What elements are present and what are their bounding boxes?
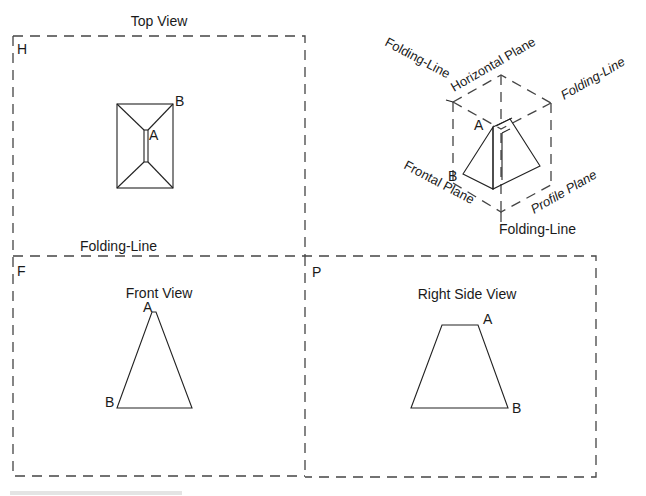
right-side-view-title: Right Side View	[418, 286, 517, 302]
front-view-triangle	[117, 312, 192, 408]
view-frames	[13, 36, 596, 477]
isometric-glass-box: A B Horizontal Plane Folding-Line Foldin…	[383, 34, 628, 237]
iso-point-a: A	[474, 117, 484, 133]
folding-line-bottom-label: Folding-Line	[499, 221, 576, 237]
top-view-point-b: B	[175, 93, 184, 109]
iso-pyramid-front-face	[463, 127, 493, 189]
plane-letter-f: F	[17, 263, 26, 279]
plane-letter-h: H	[17, 41, 27, 57]
folding-line-left-label: Folding-Line	[383, 34, 453, 81]
top-view-title: Top View	[131, 13, 188, 29]
front-view-title: Front View	[126, 285, 194, 301]
iso-pyramid-side-face	[493, 119, 540, 189]
horizontal-plane-label: Horizontal Plane	[448, 34, 538, 95]
plane-letter-p: P	[312, 264, 321, 280]
front-view-point-b: B	[105, 394, 114, 410]
profile-plane-label: Profile Plane	[528, 167, 599, 217]
frontal-plane-label: Frontal Plane	[402, 157, 477, 207]
top-view: Top View H B A	[17, 13, 188, 188]
folding-line-right-label: Folding-Line	[558, 54, 627, 103]
top-view-ridge	[144, 130, 148, 162]
bottom-strip	[10, 491, 182, 495]
top-view-frame	[13, 36, 305, 256]
folding-line-label: Folding-Line	[80, 238, 157, 254]
right-view-point-a: A	[483, 311, 493, 327]
right-side-view: P Right Side View A B	[312, 264, 521, 416]
right-side-view-trapezoid	[411, 325, 508, 408]
top-view-rectangle	[117, 104, 173, 188]
right-view-point-b: B	[512, 400, 521, 416]
top-view-point-a: A	[149, 127, 159, 143]
orthographic-projection-diagram: Top View H B A Folding-Line F Front View…	[0, 0, 646, 496]
front-view: F Front View A B	[17, 263, 193, 410]
front-view-point-a: A	[143, 299, 153, 315]
